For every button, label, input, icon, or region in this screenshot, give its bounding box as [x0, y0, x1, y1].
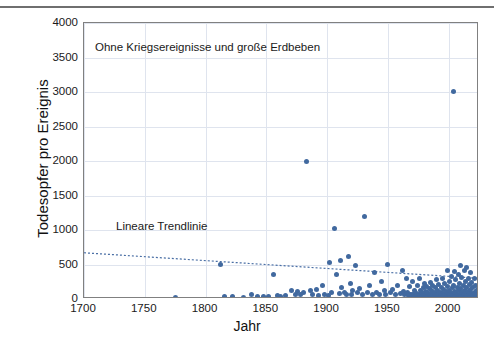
y-axis-tick-label: 3500	[18, 51, 78, 63]
data-point	[266, 294, 271, 298]
data-point	[218, 262, 223, 267]
y-axis-tick-label: 1500	[18, 189, 78, 201]
data-point	[404, 276, 409, 281]
data-point	[472, 276, 477, 281]
x-axis-tick-label: 1700	[53, 302, 113, 314]
data-point	[255, 294, 260, 298]
y-axis-tick-label: 1000	[18, 223, 78, 235]
data-point	[395, 283, 400, 288]
data-point	[417, 276, 422, 281]
y-axis-tick-label: 2000	[18, 154, 78, 166]
data-point	[283, 293, 288, 298]
x-axis-tick-label: 1950	[357, 302, 417, 314]
y-axis-tick-label: 500	[18, 258, 78, 270]
scatter-chart: Todesopfer pro Ereignis 0500100015002000…	[0, 0, 494, 345]
data-point	[337, 291, 342, 296]
data-point	[410, 279, 415, 284]
data-point	[332, 226, 337, 231]
y-axis-tick-label: 2500	[18, 120, 78, 132]
plot-area	[83, 22, 478, 298]
x-axis-tick-label: 1850	[235, 302, 295, 314]
data-point	[314, 287, 319, 292]
x-axis-tick-label: 1800	[175, 302, 235, 314]
chart-annotation-note: Ohne Kriegsereignisse und große Erdbeben	[95, 41, 320, 53]
data-point	[316, 293, 321, 298]
data-point	[362, 214, 367, 219]
data-point	[338, 258, 343, 263]
data-point	[327, 260, 332, 265]
data-point	[400, 268, 405, 273]
x-axis-tick-label: 1900	[296, 302, 356, 314]
data-point	[348, 281, 353, 286]
data-point	[241, 295, 246, 298]
linear-trendline	[84, 23, 478, 298]
data-point	[320, 283, 325, 288]
data-point	[445, 268, 450, 273]
data-point	[173, 295, 178, 298]
data-point	[451, 89, 456, 94]
data-point	[415, 283, 420, 288]
x-axis-title: Jahr	[0, 318, 494, 334]
data-point	[474, 288, 478, 293]
y-axis-tick-label: 3000	[18, 85, 78, 97]
x-axis-tick-label: 1750	[114, 302, 174, 314]
data-point	[367, 283, 372, 288]
y-axis-tick-label: 4000	[18, 16, 78, 28]
data-point	[353, 263, 358, 268]
data-point	[230, 294, 235, 298]
data-point	[304, 159, 309, 164]
x-axis-tick-label: 2000	[418, 302, 478, 314]
data-point	[473, 283, 478, 288]
data-point	[365, 290, 370, 295]
trendline-label: Lineare Trendlinie	[116, 220, 207, 232]
data-point	[474, 294, 478, 298]
